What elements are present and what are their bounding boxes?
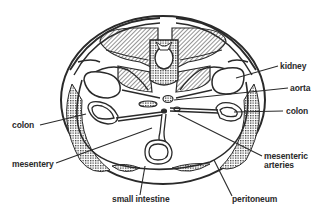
label-colon-right: colon [286,107,308,116]
diagram-drawing [0,0,327,216]
label-small-intestine: small intestine [112,195,170,204]
label-kidney: kidney [280,62,306,71]
label-aorta: aorta [290,84,310,93]
label-colon-left: colon [12,121,34,130]
label-mesentery: mesentery [12,160,54,169]
abdomen-cross-section-diagram: kidney aorta colon colon mesentery mesen… [0,0,327,216]
label-mesenteric-arteries-line2: arteries [264,161,294,170]
label-peritoneum: peritoneum [232,195,277,204]
